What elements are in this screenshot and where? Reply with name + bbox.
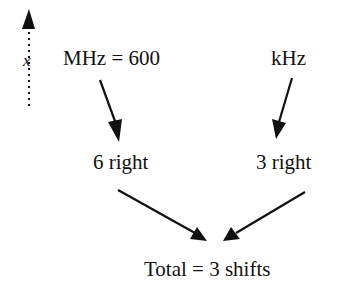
mhz-label: MHz = 600	[63, 48, 160, 69]
diagram-canvas: x MHz = 600 kHz 6 right 3 right Total = …	[0, 0, 350, 304]
khz-label: kHz	[271, 48, 306, 69]
left-shift-label: 6 right	[93, 152, 148, 173]
arrow-khz-to-3-right-icon	[272, 78, 292, 139]
right-shift-label: 3 right	[256, 152, 311, 173]
arrow-6-right-to-total-icon	[118, 190, 207, 241]
arrow-3-right-to-total-icon	[223, 192, 305, 241]
axis-variable-label: x	[23, 52, 31, 69]
arrow-mhz-to-6-right-icon	[100, 80, 122, 142]
total-label: Total = 3 shifts	[144, 259, 270, 280]
